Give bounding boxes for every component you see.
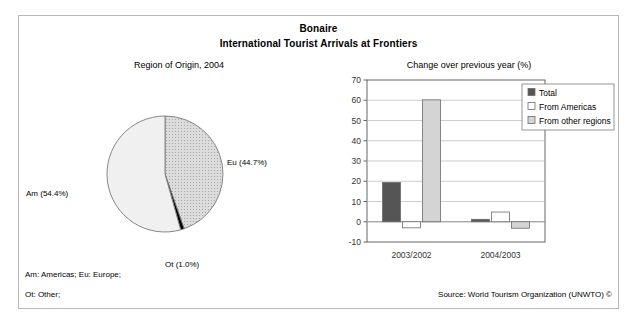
svg-text:10: 10 — [352, 197, 362, 207]
svg-text:Total: Total — [539, 88, 557, 98]
footnote-other: Ot: Other; — [25, 290, 60, 299]
bar-x-axis-ticks: 2003/20022004/2003 — [391, 250, 520, 260]
bar-chart-svg: -10010203040506070 2003/20022004/2003 To… — [337, 72, 617, 282]
svg-text:60: 60 — [352, 95, 362, 105]
svg-text:From other regions: From other regions — [539, 116, 611, 126]
svg-text:70: 70 — [352, 75, 362, 85]
pie-label-europe: Eu (44.7%) — [227, 158, 267, 167]
pie-label-other: Ot (1.0%) — [165, 260, 199, 269]
svg-text:-10: -10 — [349, 237, 362, 247]
svg-text:50: 50 — [352, 116, 362, 126]
pie-chart-title: Region of Origin, 2004 — [49, 60, 309, 70]
svg-text:20: 20 — [352, 176, 362, 186]
svg-text:2003/2002: 2003/2002 — [391, 250, 431, 260]
svg-text:30: 30 — [352, 156, 362, 166]
svg-text:2004/2003: 2004/2003 — [480, 250, 520, 260]
source-credit: Source: World Tourism Organization (UNWT… — [438, 290, 612, 299]
bar-chart-title: Change over previous year (%) — [339, 60, 599, 70]
bar-chart-legend: TotalFrom AmericasFrom other regions — [522, 84, 614, 130]
page-title: Bonaire — [19, 23, 618, 34]
svg-text:40: 40 — [352, 136, 362, 146]
page-subtitle: International Tourist Arrivals at Fronti… — [19, 38, 618, 49]
pie-label-americas: Am (54.4%) — [26, 189, 68, 198]
bar-chart: -10010203040506070 2003/20022004/2003 To… — [337, 72, 617, 282]
pie-slices — [107, 116, 223, 232]
svg-text:0: 0 — [356, 217, 361, 227]
figure-frame: Bonaire International Tourist Arrivals a… — [18, 15, 619, 309]
footnote-regions: Am: Americas; Eu: Europe; — [25, 270, 121, 279]
bar-y-axis-ticks: -10010203040506070 — [349, 75, 367, 247]
pie-chart: Am (54.4%) Eu (44.7%) Ot (1.0%) — [19, 74, 319, 274]
pie-chart-svg — [19, 74, 319, 274]
svg-text:From Americas: From Americas — [539, 102, 596, 112]
